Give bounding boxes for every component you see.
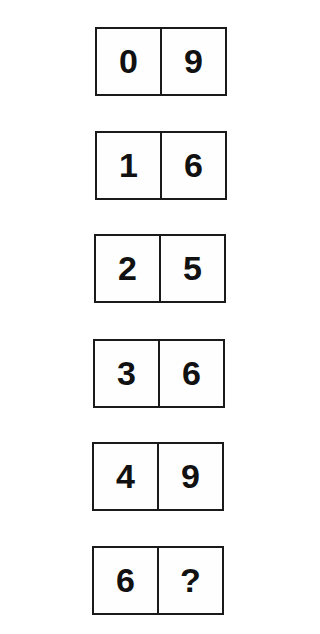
tile-left-value: 6 <box>94 548 159 613</box>
tile-right-value: 5 <box>161 236 224 301</box>
tile-1: 1 6 <box>95 131 227 200</box>
tile-unknown-value: ? <box>159 548 222 613</box>
tile-5-question: 6 ? <box>92 546 224 615</box>
tile-right-value: 6 <box>160 341 223 406</box>
tile-3: 3 6 <box>93 339 225 408</box>
tile-left-value: 4 <box>94 444 159 509</box>
tile-2: 2 5 <box>94 234 226 303</box>
tile-right-value: 9 <box>162 29 225 94</box>
tile-left-value: 2 <box>96 236 161 301</box>
tile-0: 0 9 <box>95 27 227 96</box>
tile-right-value: 6 <box>162 133 225 198</box>
tile-left-value: 1 <box>97 133 162 198</box>
tile-4: 4 9 <box>92 442 224 511</box>
tile-left-value: 0 <box>97 29 162 94</box>
tile-left-value: 3 <box>95 341 160 406</box>
tile-right-value: 9 <box>159 444 222 509</box>
